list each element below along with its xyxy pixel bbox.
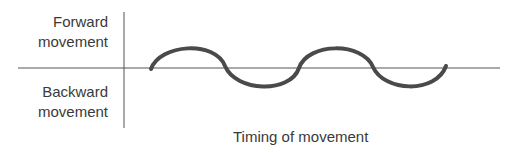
- movement-wave: [151, 48, 446, 86]
- x-axis-label: Timing of movement: [233, 128, 368, 145]
